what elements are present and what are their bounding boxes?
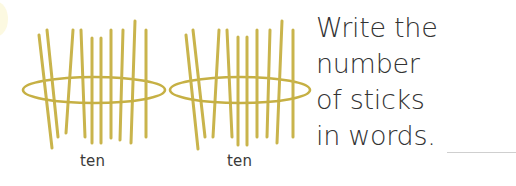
instruction-line-2: number bbox=[316, 46, 437, 82]
stick bbox=[213, 30, 219, 137]
instruction-line-4: in words. bbox=[316, 118, 437, 154]
stick bbox=[66, 30, 73, 133]
instruction-line-3: of sticks bbox=[316, 82, 437, 118]
stick bbox=[131, 21, 135, 143]
instruction-text: Write the number of sticks in words. bbox=[316, 10, 437, 154]
stick bbox=[120, 30, 123, 140]
stick bbox=[267, 30, 270, 137]
stick bbox=[81, 30, 85, 137]
stick-bundles-illustration bbox=[0, 0, 516, 186]
bundle-1-label: ten bbox=[80, 151, 105, 171]
stick bbox=[227, 30, 232, 137]
stick bbox=[277, 21, 282, 143]
bundle-of-ten-sticks-2 bbox=[170, 21, 310, 149]
bundle-of-ten-sticks-1 bbox=[23, 21, 165, 148]
instruction-line-1: Write the bbox=[316, 10, 437, 46]
bundle-2-label: ten bbox=[227, 151, 252, 171]
answer-blank-line[interactable] bbox=[447, 152, 516, 153]
